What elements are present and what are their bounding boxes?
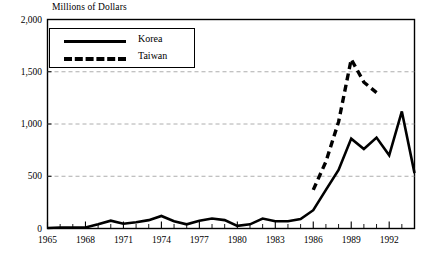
- x-tick-label: 1965: [28, 235, 68, 245]
- x-tick-label: 1968: [65, 235, 105, 245]
- legend-label-taiwan: Taiwan: [138, 50, 167, 61]
- y-axis-title: Millions of Dollars: [52, 2, 127, 12]
- legend-item-korea: Korea: [50, 32, 194, 50]
- y-tick-label: 1,000: [0, 119, 42, 129]
- x-tick-label: 1986: [293, 235, 333, 245]
- x-tick-label: 1980: [217, 235, 257, 245]
- chart-figure: Millions of Dollars 05001,0001,5002,000 …: [0, 0, 432, 254]
- legend-swatch-korea: [64, 40, 126, 43]
- x-tick-label: 1974: [141, 235, 181, 245]
- x-tick-label: 1971: [103, 235, 143, 245]
- y-tick-label: 500: [0, 171, 42, 181]
- legend-label-korea: Korea: [138, 33, 162, 44]
- y-tick-label: 2,000: [0, 15, 42, 25]
- chart-legend: Korea Taiwan: [49, 28, 195, 68]
- x-tick-label: 1992: [369, 235, 409, 245]
- legend-item-taiwan: Taiwan: [50, 49, 194, 67]
- legend-swatch-taiwan: [64, 57, 126, 61]
- x-tick-label: 1983: [255, 235, 295, 245]
- y-tick-label: 0: [0, 224, 42, 234]
- y-tick-label: 1,500: [0, 67, 42, 77]
- x-tick-label: 1989: [331, 235, 371, 245]
- x-tick-label: 1977: [179, 235, 219, 245]
